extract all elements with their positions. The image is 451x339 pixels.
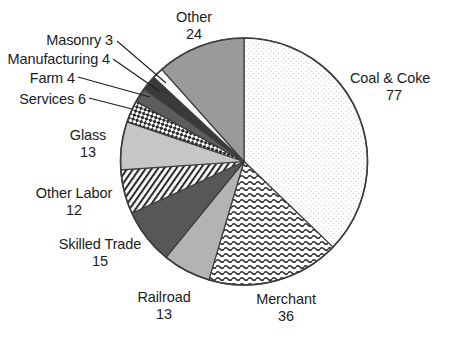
slice-label-railroad-name: Railroad [128,289,200,306]
slice-label-merchant-name: Merchant [248,291,324,308]
slice-label-masonry: Masonry 3 [0,32,113,49]
slice-label-farm: Farm 4 [0,70,75,87]
slice-label-skilled-trade: Skilled Trade 15 [50,236,150,269]
slice-label-coal-coke: Coal & Coke 77 [350,70,438,103]
leader-line-services [89,98,132,109]
leader-line-farm [78,77,150,97]
slice-label-services: Services 6 [0,91,86,108]
slice-label-glass-name: Glass [62,127,114,144]
slice-label-merchant: Merchant 36 [248,291,324,324]
slice-label-railroad-value: 13 [128,306,200,323]
leader-line-masonry [117,41,166,83]
slice-label-other: Other 24 [163,9,225,42]
slice-label-glass: Glass 13 [62,127,114,160]
slice-label-manufacturing: Manufacturing 4 [0,51,110,68]
slice-label-merchant-value: 36 [248,308,324,325]
pie-chart: Coal & Coke 77 Merchant 36 Railroad 13 S… [0,0,451,339]
slice-label-other-labor: Other Labor 12 [28,185,120,218]
leader-line-manufacturing [113,59,159,91]
slice-label-railroad: Railroad 13 [128,289,200,322]
slice-label-glass-value: 13 [62,144,114,161]
slice-label-other-labor-name: Other Labor [28,185,120,202]
slice-label-other-labor-value: 12 [28,202,120,219]
slice-label-skilled-trade-name: Skilled Trade [50,236,150,253]
slice-label-coal-coke-name: Coal & Coke [350,70,438,87]
slice-label-coal-coke-value: 77 [350,87,438,104]
slice-label-other-name: Other [163,9,225,26]
slice-label-other-value: 24 [163,26,225,43]
slice-label-skilled-trade-value: 15 [50,253,150,270]
